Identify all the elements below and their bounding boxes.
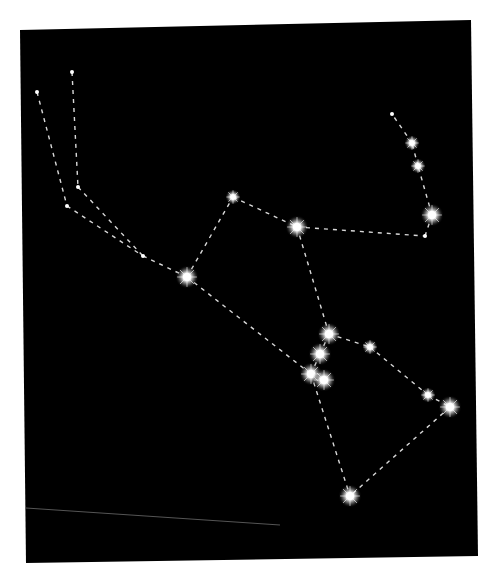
star-icon xyxy=(420,203,443,226)
star-icon xyxy=(438,395,461,418)
star-icon xyxy=(410,158,426,174)
star-icon xyxy=(141,254,145,258)
star-icon xyxy=(35,90,39,94)
star-icon xyxy=(308,342,331,365)
star-icon xyxy=(338,484,361,507)
constellation-diagram xyxy=(0,0,489,575)
star-icon xyxy=(225,189,241,205)
star-icon xyxy=(65,204,69,208)
star-icon xyxy=(404,135,420,151)
star-icon xyxy=(390,112,394,116)
star-icon xyxy=(285,215,308,238)
star-icon xyxy=(423,234,427,238)
star-icon xyxy=(317,322,340,345)
star-icon xyxy=(420,387,436,403)
star-icon xyxy=(70,70,74,74)
star-icon xyxy=(312,368,335,391)
star-icon xyxy=(76,185,80,189)
star-icon xyxy=(175,265,198,288)
sky-background xyxy=(20,20,478,563)
star-icon xyxy=(362,339,378,355)
